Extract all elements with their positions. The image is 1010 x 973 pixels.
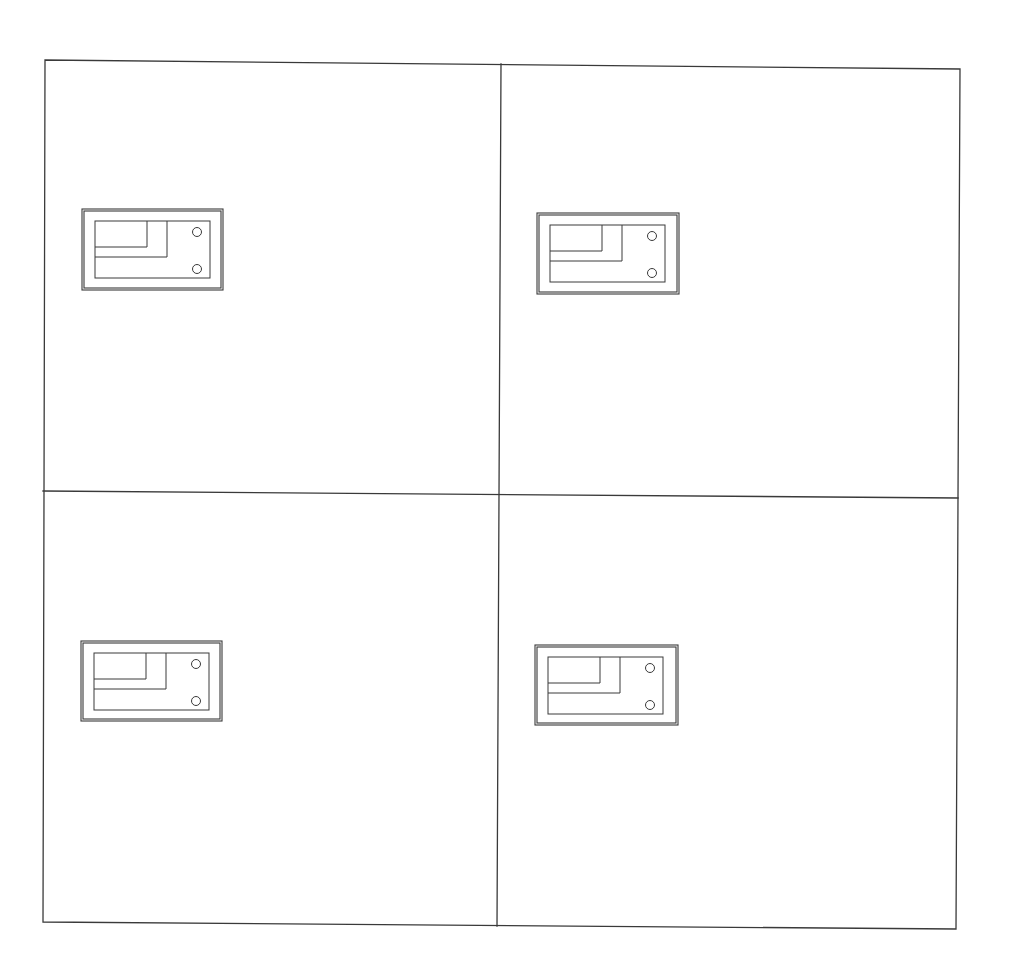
- mounting-hole-icon-2: [648, 269, 657, 278]
- component-symbol-bottom-right: [535, 645, 678, 725]
- symbol-step-line-2: [550, 225, 622, 261]
- symbol-outer-border-inner-line: [539, 215, 677, 292]
- mounting-hole-icon-1: [646, 664, 655, 673]
- mounting-hole-icon-1: [648, 232, 657, 241]
- symbol-step-line-1: [94, 653, 146, 679]
- quadrant-dividers: [43, 64, 958, 926]
- symbol-outer-border-inner-line: [84, 211, 221, 288]
- component-symbol-top-left: [82, 209, 223, 290]
- mounting-hole-icon-2: [646, 701, 655, 710]
- mounting-hole-icon-2: [193, 265, 202, 274]
- component-symbol-bottom-left: [81, 641, 222, 721]
- symbol-step-line-2: [548, 657, 620, 693]
- symbol-step-line-1: [95, 221, 147, 247]
- symbol-outer-border-inner-line: [83, 643, 220, 719]
- symbol-step-line-1: [548, 657, 600, 683]
- mounting-hole-icon-2: [192, 697, 201, 706]
- component-symbol-top-right: [537, 213, 679, 294]
- drawing-canvas: [0, 0, 1010, 973]
- symbol-step-line-2: [95, 221, 167, 257]
- horizontal-divider: [43, 491, 958, 498]
- symbol-step-line-1: [550, 225, 602, 251]
- symbol-step-line-2: [94, 653, 166, 689]
- symbol-outer-border-inner-line: [537, 647, 676, 723]
- component-symbols: [81, 209, 679, 725]
- mounting-hole-icon-1: [193, 228, 202, 237]
- mounting-hole-icon-1: [192, 660, 201, 669]
